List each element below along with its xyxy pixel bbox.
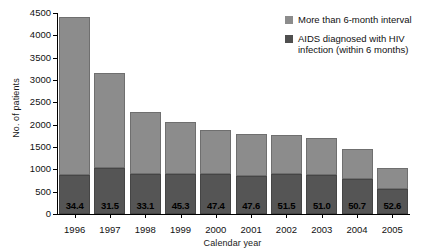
chart-figure: No. of patients Calendar year 0500100015… xyxy=(0,0,426,252)
x-tick-label-2004: 2004 xyxy=(346,224,367,235)
legend-item-label: AIDS diagnosed with HIV infection (withi… xyxy=(298,33,418,56)
y-tick-mark xyxy=(53,35,57,36)
y-tick-mark xyxy=(53,147,57,148)
bar-2001: 47.6 xyxy=(236,134,267,214)
x-axis-title: Calendar year xyxy=(55,238,410,248)
x-tick-label-1998: 1998 xyxy=(135,224,156,235)
x-tick-mark xyxy=(322,214,323,218)
x-tick-mark xyxy=(145,214,146,218)
y-tick-label: 1500 xyxy=(30,142,51,152)
bar-2005: 52.6 xyxy=(377,168,408,214)
bar-data-label: 47.6 xyxy=(236,200,267,211)
legend-swatch-dark xyxy=(285,35,293,43)
x-tick-label-1997: 1997 xyxy=(99,224,120,235)
bar-segment-more-than-6-month xyxy=(130,112,161,175)
y-tick-label: 0 xyxy=(46,209,51,219)
bar-1997: 31.5 xyxy=(94,73,125,214)
bar-data-label: 45.3 xyxy=(165,200,196,211)
bar-segment-more-than-6-month xyxy=(165,122,196,173)
chart-legend: More than 6-month intervalAIDS diagnosed… xyxy=(285,14,425,63)
bar-data-label: 51.0 xyxy=(306,200,337,211)
bar-data-label: 47.4 xyxy=(200,200,231,211)
x-tick-label-2003: 2003 xyxy=(311,224,332,235)
x-tick-mark xyxy=(216,214,217,218)
bar-1996: 34.4 xyxy=(59,17,90,214)
bar-2003: 51.0 xyxy=(306,138,337,214)
y-tick-mark xyxy=(53,169,57,170)
x-tick-label-2000: 2000 xyxy=(205,224,226,235)
bar-1998: 33.1 xyxy=(130,112,161,214)
y-tick-label: 2000 xyxy=(30,120,51,130)
y-tick-mark xyxy=(53,102,57,103)
x-tick-mark xyxy=(110,214,111,218)
x-tick-label-1999: 1999 xyxy=(170,224,191,235)
y-tick-label: 2500 xyxy=(30,98,51,108)
x-tick-label-2005: 2005 xyxy=(382,224,403,235)
y-tick-mark xyxy=(53,214,57,215)
bar-1999: 45.3 xyxy=(165,122,196,214)
bar-segment-more-than-6-month xyxy=(342,149,373,179)
legend-item-1: AIDS diagnosed with HIV infection (withi… xyxy=(285,33,425,56)
bar-2000: 47.4 xyxy=(200,130,231,214)
bar-segment-more-than-6-month xyxy=(306,138,337,175)
y-tick-label: 3000 xyxy=(30,75,51,85)
bar-2002: 51.5 xyxy=(271,135,302,215)
y-tick-label: 1000 xyxy=(30,165,51,175)
bar-segment-more-than-6-month xyxy=(271,135,302,174)
y-tick-label: 4000 xyxy=(30,31,51,41)
y-tick-mark xyxy=(53,192,57,193)
x-tick-mark xyxy=(357,214,358,218)
x-tick-label-2001: 2001 xyxy=(241,224,262,235)
bar-data-label: 51.5 xyxy=(271,200,302,211)
y-tick-label: 500 xyxy=(35,187,51,197)
x-tick-mark xyxy=(286,214,287,218)
bar-data-label: 34.4 xyxy=(59,200,90,211)
y-axis-title: No. of patients xyxy=(11,48,21,168)
x-tick-mark xyxy=(251,214,252,218)
bar-segment-more-than-6-month xyxy=(200,130,231,174)
legend-item-0: More than 6-month interval xyxy=(285,14,425,26)
bar-2004: 50.7 xyxy=(342,149,373,214)
y-tick-mark xyxy=(53,80,57,81)
y-tick-mark xyxy=(53,125,57,126)
x-tick-mark xyxy=(75,214,76,218)
bar-data-label: 52.6 xyxy=(377,200,408,211)
bar-data-label: 33.1 xyxy=(130,200,161,211)
x-tick-mark xyxy=(392,214,393,218)
y-tick-mark xyxy=(53,58,57,59)
legend-item-label: More than 6-month interval xyxy=(298,14,412,26)
y-tick-label: 4500 xyxy=(30,8,51,18)
x-tick-label-1996: 1996 xyxy=(64,224,85,235)
x-tick-label-2002: 2002 xyxy=(276,224,297,235)
legend-swatch-light xyxy=(285,16,293,24)
bar-segment-more-than-6-month xyxy=(59,17,90,176)
y-axis-line xyxy=(57,13,58,215)
y-tick-mark xyxy=(53,13,57,14)
bar-data-label: 50.7 xyxy=(342,200,373,211)
bar-segment-more-than-6-month xyxy=(377,168,408,189)
bar-segment-more-than-6-month xyxy=(236,134,267,176)
bar-segment-more-than-6-month xyxy=(94,73,125,169)
bar-data-label: 31.5 xyxy=(94,200,125,211)
x-tick-mark xyxy=(181,214,182,218)
y-tick-label: 3500 xyxy=(30,53,51,63)
